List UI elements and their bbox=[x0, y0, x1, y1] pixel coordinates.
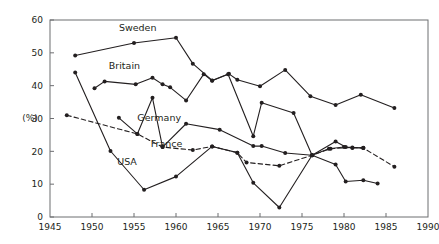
data-point bbox=[283, 68, 287, 72]
data-point bbox=[334, 103, 338, 107]
series-line bbox=[75, 38, 394, 108]
data-point bbox=[260, 101, 264, 105]
series-usa bbox=[73, 71, 379, 210]
plot-area-border bbox=[50, 20, 428, 217]
data-point bbox=[174, 36, 178, 40]
data-point bbox=[359, 93, 363, 97]
series-line bbox=[67, 115, 395, 167]
data-point bbox=[65, 113, 69, 117]
data-point bbox=[135, 132, 139, 136]
data-point bbox=[202, 72, 206, 76]
x-tick-label: 1965 bbox=[207, 222, 230, 232]
data-point bbox=[258, 84, 262, 88]
data-point bbox=[161, 82, 165, 86]
y-tick-label: 10 bbox=[32, 179, 44, 189]
data-point bbox=[277, 205, 281, 209]
data-point bbox=[361, 146, 365, 150]
data-point bbox=[134, 82, 138, 86]
data-point bbox=[218, 128, 222, 132]
data-point bbox=[103, 79, 107, 83]
data-point bbox=[251, 134, 255, 138]
x-tick-label: 1970 bbox=[249, 222, 272, 232]
data-point bbox=[117, 116, 121, 120]
data-point bbox=[184, 98, 188, 102]
data-point bbox=[392, 106, 396, 110]
data-point bbox=[292, 111, 296, 115]
x-tick-label: 1990 bbox=[417, 222, 439, 232]
x-tick-label: 1950 bbox=[81, 222, 104, 232]
y-tick-label: 40 bbox=[32, 81, 44, 91]
data-point bbox=[260, 144, 264, 148]
data-point bbox=[308, 94, 312, 98]
series-line bbox=[75, 73, 377, 208]
data-point bbox=[184, 122, 188, 126]
data-point bbox=[210, 144, 214, 148]
data-point bbox=[168, 85, 172, 89]
data-point bbox=[174, 175, 178, 179]
data-point bbox=[93, 86, 97, 90]
data-point bbox=[191, 62, 195, 66]
plot-frame bbox=[50, 20, 428, 217]
data-point bbox=[361, 178, 365, 182]
data-point bbox=[350, 145, 354, 149]
x-axis-ticks: 1945195019551960196519701975198019851990 bbox=[39, 213, 439, 232]
data-point bbox=[150, 76, 154, 80]
data-point bbox=[73, 71, 77, 75]
y-tick-label: 20 bbox=[32, 147, 44, 157]
data-point bbox=[142, 188, 146, 192]
series-label-britain: Britain bbox=[109, 60, 140, 71]
data-point bbox=[73, 53, 77, 57]
x-tick-label: 1960 bbox=[165, 222, 188, 232]
series-line bbox=[95, 74, 364, 155]
data-point bbox=[334, 162, 338, 166]
series-sweden bbox=[73, 36, 396, 110]
data-point bbox=[251, 144, 255, 148]
data-point bbox=[376, 182, 380, 186]
y-axis-label: (%) bbox=[22, 113, 38, 123]
series-label-sweden: Sweden bbox=[119, 22, 157, 33]
series-label-france: France bbox=[151, 138, 183, 149]
chart-canvas: 0102030405060 19451950195519601965197019… bbox=[0, 0, 439, 244]
line-chart: 0102030405060 19451950195519601965197019… bbox=[0, 0, 439, 244]
data-point bbox=[235, 78, 239, 82]
data-point bbox=[150, 96, 154, 100]
data-point bbox=[251, 181, 255, 185]
x-tick-label: 1985 bbox=[375, 222, 398, 232]
series-britain bbox=[93, 72, 366, 157]
data-point bbox=[245, 161, 249, 165]
data-point bbox=[334, 139, 338, 143]
x-tick-label: 1945 bbox=[39, 222, 62, 232]
series-label-usa: USA bbox=[117, 156, 137, 167]
data-point bbox=[191, 148, 195, 152]
y-tick-label: 60 bbox=[32, 15, 44, 25]
x-tick-label: 1980 bbox=[333, 222, 356, 232]
data-point bbox=[235, 151, 239, 155]
data-point bbox=[329, 147, 333, 151]
data-point bbox=[277, 164, 281, 168]
x-tick-label: 1975 bbox=[291, 222, 314, 232]
data-point bbox=[132, 41, 136, 45]
data-point bbox=[344, 145, 348, 149]
series-label-germany: Germany bbox=[137, 112, 181, 123]
data-point bbox=[226, 72, 230, 76]
y-tick-label: 50 bbox=[32, 48, 44, 58]
series-labels-layer: SwedenBritainGermanyFranceUSA bbox=[109, 22, 183, 167]
y-tick-label: 0 bbox=[37, 212, 43, 222]
data-point bbox=[344, 180, 348, 184]
data-point bbox=[392, 165, 396, 169]
data-point bbox=[310, 153, 314, 157]
x-tick-label: 1955 bbox=[123, 222, 146, 232]
data-point bbox=[108, 149, 112, 153]
series-france bbox=[65, 113, 397, 169]
data-point bbox=[283, 151, 287, 155]
data-point bbox=[210, 79, 214, 83]
